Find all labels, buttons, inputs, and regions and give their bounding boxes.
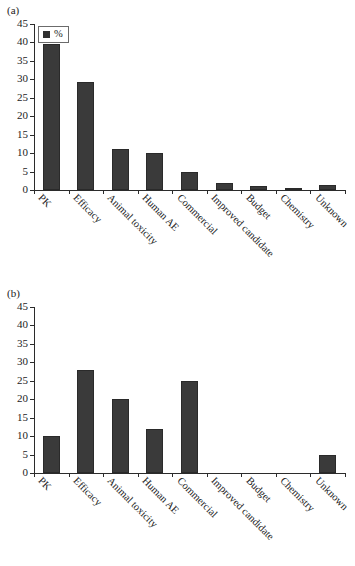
- y-tick-label: 5: [23, 448, 29, 461]
- y-tick-mark: [30, 61, 34, 62]
- y-tick-mark: [30, 98, 34, 99]
- y-tick-mark: [30, 418, 34, 419]
- y-tick-label: 45: [17, 300, 28, 313]
- y-tick-mark: [30, 325, 34, 326]
- y-tick-label: 15: [17, 128, 28, 141]
- y-tick-label: 40: [17, 35, 28, 48]
- y-tick-label: 0: [23, 183, 29, 196]
- y-tick-mark: [30, 344, 34, 345]
- y-tick-label: 5: [23, 165, 29, 178]
- plot-area-b: 051015202530354045: [34, 307, 345, 473]
- y-tick-label: 30: [17, 72, 28, 85]
- x-axis-labels-a: PKEfficacyAnimal toxicityHuman AECommerc…: [34, 192, 345, 282]
- x-axis-label: PK: [36, 475, 53, 492]
- y-tick-mark: [30, 172, 34, 173]
- bar: [43, 44, 60, 190]
- y-tick-mark: [30, 362, 34, 363]
- figure-two-panel-bar-charts: (a) 051015202530354045 PKEfficacyAnimal …: [0, 0, 355, 566]
- bar: [77, 82, 94, 190]
- legend-a-label: %: [54, 29, 63, 40]
- bar: [112, 399, 129, 473]
- y-tick-label: 40: [17, 318, 28, 331]
- y-tick-label: 30: [17, 355, 28, 368]
- y-tick-label: 0: [23, 466, 29, 479]
- y-tick-label: 45: [17, 17, 28, 30]
- bar: [250, 186, 267, 190]
- x-axis-label: Efficacy: [71, 475, 104, 508]
- panel-b-label: (b): [7, 287, 20, 299]
- x-axis-label: Unknown: [313, 475, 350, 512]
- y-tick-label: 20: [17, 109, 28, 122]
- x-axis-label: Unknown: [313, 192, 350, 229]
- bar: [216, 183, 233, 190]
- x-axis-label: Improved candidate: [209, 192, 276, 259]
- y-tick-label: 20: [17, 392, 28, 405]
- bar: [181, 381, 198, 473]
- y-tick-label: 15: [17, 411, 28, 424]
- y-tick-mark: [30, 399, 34, 400]
- bar: [181, 172, 198, 190]
- square-marker-icon: [43, 31, 50, 38]
- bar-series-a: [34, 24, 345, 190]
- y-tick-mark: [30, 455, 34, 456]
- y-tick-label: 10: [17, 429, 28, 442]
- bar: [43, 436, 60, 473]
- y-tick-mark: [30, 307, 34, 308]
- legend-a: %: [38, 26, 69, 43]
- y-tick-mark: [30, 79, 34, 80]
- y-tick-label: 25: [17, 374, 28, 387]
- bar: [146, 153, 163, 190]
- y-tick-mark: [30, 42, 34, 43]
- x-axis-label: PK: [36, 192, 53, 209]
- x-tick-mark: [345, 473, 346, 477]
- y-tick-label: 35: [17, 337, 28, 350]
- y-tick-label: 10: [17, 146, 28, 159]
- x-axis-label: Chemistry: [278, 475, 317, 514]
- plot-area-a: 051015202530354045: [34, 24, 345, 190]
- y-tick-mark: [30, 116, 34, 117]
- x-axis-b: [34, 473, 345, 474]
- y-tick-mark: [30, 24, 34, 25]
- bar: [319, 455, 336, 473]
- y-tick-mark: [30, 436, 34, 437]
- x-axis-label: Efficacy: [71, 192, 104, 225]
- bar: [112, 149, 129, 190]
- y-tick-label: 25: [17, 91, 28, 104]
- x-axis-label: Budget: [244, 192, 273, 221]
- panel-a: (a) 051015202530354045 PKEfficacyAnimal …: [0, 0, 355, 283]
- bar-series-b: [34, 307, 345, 473]
- bar: [319, 185, 336, 190]
- y-tick-mark: [30, 135, 34, 136]
- bar: [146, 429, 163, 473]
- x-axis-label: Budget: [244, 475, 273, 504]
- bar: [285, 188, 302, 190]
- x-axis-label: Improved candidate: [209, 475, 276, 542]
- y-tick-label: 35: [17, 54, 28, 67]
- y-tick-mark: [30, 153, 34, 154]
- bar: [77, 370, 94, 473]
- x-axis-labels-b: PKEfficacyAnimal toxicityHuman AECommerc…: [34, 475, 345, 565]
- x-tick-mark: [345, 190, 346, 194]
- y-tick-mark: [30, 381, 34, 382]
- panel-a-label: (a): [7, 4, 19, 16]
- panel-b: (b) 051015202530354045 PKEfficacyAnimal …: [0, 283, 355, 566]
- x-axis-a: [34, 190, 345, 191]
- x-axis-label: Chemistry: [278, 192, 317, 231]
